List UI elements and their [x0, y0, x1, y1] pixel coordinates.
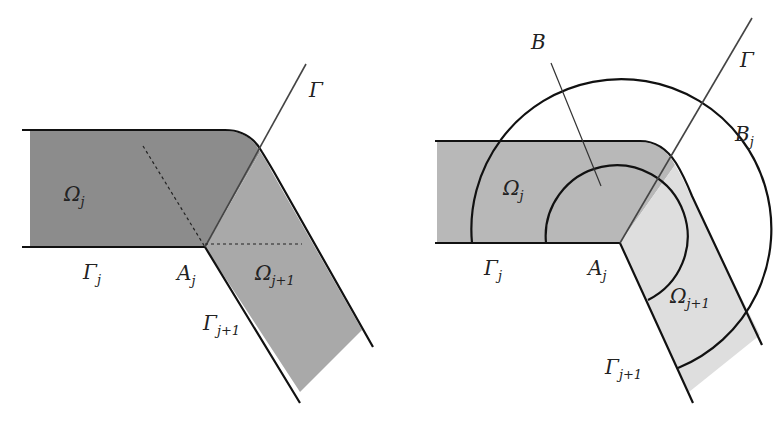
- label-subscript: j+1: [272, 273, 295, 288]
- label-subscript: j: [97, 272, 101, 287]
- label-base: A: [588, 256, 602, 280]
- left-label-a-j: Aj: [177, 263, 195, 283]
- right-label-b-j: Bj: [735, 124, 754, 144]
- right-label-b: B: [531, 32, 546, 52]
- left-figure: [22, 64, 373, 403]
- right-figure: [435, 18, 771, 403]
- diagram-stage: Γ Ωj Ωj+1 Γj Aj Γj+1 B Γ Bj Ωj Ωj+1 Γj A…: [0, 0, 784, 423]
- left-label-omega-j1: Ωj+1: [255, 263, 295, 283]
- label-subscript: j: [602, 268, 606, 283]
- label-base: Ω: [670, 284, 687, 308]
- right-label-omega-j: Ωj: [503, 178, 524, 198]
- right-label-omega-j1: Ωj+1: [670, 286, 710, 306]
- label-subscript: j: [81, 194, 85, 209]
- label-base: Γ: [83, 260, 97, 284]
- label-base: Γ: [309, 78, 323, 102]
- right-label-gamma-j1: Γj+1: [605, 357, 642, 377]
- label-subscript: j+1: [687, 296, 710, 311]
- label-base: Ω: [64, 182, 81, 206]
- label-subscript: j: [498, 268, 502, 283]
- label-subscript: j+1: [217, 323, 240, 338]
- label-base: Γ: [203, 311, 217, 335]
- right-label-gamma-j: Γj: [484, 258, 502, 278]
- label-base: Γ: [605, 355, 619, 379]
- label-base: B: [531, 30, 546, 54]
- label-base: Γ: [484, 256, 498, 280]
- diagram-canvas: [0, 0, 784, 423]
- label-base: A: [177, 261, 191, 285]
- label-subscript: j: [520, 188, 524, 203]
- label-subscript: j+1: [619, 367, 642, 382]
- label-subscript: j: [191, 273, 195, 288]
- label-base: Γ: [740, 48, 754, 72]
- label-base: Ω: [503, 176, 520, 200]
- label-subscript: j: [750, 134, 754, 149]
- left-label-gamma-j: Γj: [83, 262, 101, 282]
- left-label-omega-j: Ωj: [64, 184, 85, 204]
- right-label-gamma: Γ: [740, 50, 754, 70]
- left-label-gamma: Γ: [309, 80, 323, 100]
- label-base: Ω: [255, 261, 272, 285]
- label-base: B: [735, 122, 750, 146]
- right-label-a-j: Aj: [588, 258, 606, 278]
- left-label-gamma-j1: Γj+1: [203, 313, 240, 333]
